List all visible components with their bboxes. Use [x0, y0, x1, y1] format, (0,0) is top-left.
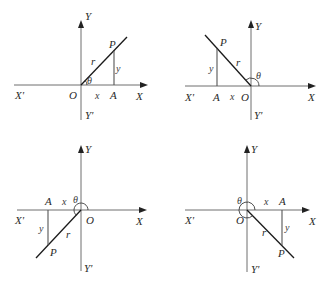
terminal-side-r	[247, 210, 294, 258]
terminal-side-r	[36, 210, 81, 258]
label-foot-a: A	[212, 91, 220, 103]
quadrant-diagrams: Y Y' X' X O P A r θ x y Y Y' X' X O P A …	[0, 0, 331, 284]
panel-quadrant-2: Y Y' X' X O P A r θ x y	[184, 20, 316, 121]
label-y: Y	[251, 143, 259, 155]
label-radius: r	[236, 56, 241, 68]
label-x: X	[135, 215, 144, 227]
label-y: Y	[85, 10, 93, 22]
label-x-prime: X'	[14, 214, 25, 226]
label-x-length: x	[263, 196, 269, 207]
label-point-p: P	[219, 36, 227, 48]
label-theta: θ	[256, 70, 261, 81]
label-x: X	[307, 91, 316, 103]
y-axis-arrow-icon	[244, 145, 250, 153]
y-axis-arrow-icon	[248, 20, 254, 28]
label-x-length: x	[94, 90, 100, 101]
label-theta: θ	[237, 195, 242, 206]
label-y-prime: Y'	[254, 109, 263, 121]
label-y-length: y	[38, 223, 44, 234]
panel-quadrant-1: Y Y' X' X O P A r θ x y	[14, 10, 148, 121]
y-axis-arrow-icon	[78, 145, 84, 153]
label-radius: r	[262, 226, 267, 238]
y-axis-arrow-icon	[78, 20, 84, 28]
label-y-length: y	[208, 63, 214, 74]
label-theta: θ	[87, 75, 92, 86]
label-point-p: P	[49, 246, 57, 258]
x-axis-arrow-icon	[308, 83, 316, 89]
label-x-length: x	[229, 91, 235, 102]
label-point-p: P	[108, 38, 116, 50]
label-point-p: P	[277, 247, 285, 259]
label-y-prime: Y'	[251, 263, 260, 275]
label-y-prime: Y'	[84, 262, 93, 274]
label-y: Y	[85, 143, 93, 155]
label-theta: θ	[73, 194, 78, 205]
x-axis-arrow-icon	[302, 207, 310, 213]
label-origin: O	[69, 89, 77, 101]
label-y-length: y	[284, 222, 290, 233]
label-y: Y	[255, 20, 263, 32]
label-y-length: y	[115, 63, 121, 74]
label-x-prime: X'	[184, 214, 195, 226]
panel-quadrant-3: Y Y' X' X O P A r θ x y	[14, 143, 147, 274]
label-foot-a: A	[278, 195, 286, 207]
label-foot-a: A	[109, 89, 117, 101]
label-x: X	[135, 90, 144, 102]
label-x-length: x	[61, 196, 67, 207]
x-axis-arrow-icon	[140, 82, 148, 88]
label-x-prime: X'	[14, 89, 25, 101]
label-radius: r	[66, 228, 71, 240]
label-origin: O	[86, 214, 94, 226]
label-foot-a: A	[44, 195, 52, 207]
label-radius: r	[91, 55, 96, 67]
label-origin: O	[241, 91, 249, 103]
label-x: X	[308, 215, 317, 227]
label-x-prime: X'	[184, 91, 195, 103]
label-origin: O	[236, 214, 244, 226]
panel-quadrant-4: Y Y' X' X O P A r θ x y	[184, 143, 317, 275]
label-y-prime: Y'	[85, 109, 94, 121]
terminal-side-r	[205, 35, 251, 86]
x-axis-arrow-icon	[139, 207, 147, 213]
